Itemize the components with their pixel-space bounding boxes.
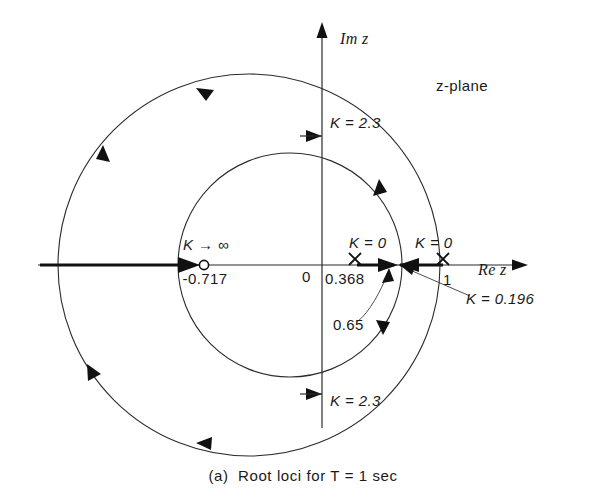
root-locus-figure: Im z Re z z-plane 0 K → ∞ -0.717 K = 0 0… xyxy=(0,0,606,499)
imaginary-axis-label: Im z xyxy=(339,30,369,47)
zero-marker-minus-0717 xyxy=(199,260,208,269)
break-in-gain-label: K = 0.196 xyxy=(466,290,534,307)
figure-background xyxy=(0,0,606,499)
crossing-gain-lower-label: K = 2.3 xyxy=(330,392,381,409)
pole-origin-value-label: 0.368 xyxy=(325,270,365,287)
figure-caption: (a) Root loci for T = 1 sec xyxy=(208,467,397,484)
root-locus-plot: Im z Re z z-plane 0 K → ∞ -0.717 K = 0 0… xyxy=(0,0,606,499)
pole-unit-value-label: 1 xyxy=(443,271,452,288)
z-plane-label: z-plane xyxy=(436,77,488,94)
breakaway-value-label: 0.65 xyxy=(333,316,364,333)
pole-origin-gain-label: K = 0 xyxy=(349,234,387,251)
zero-value-label: -0.717 xyxy=(183,270,228,287)
origin-label: 0 xyxy=(302,268,311,285)
pole-unit-gain-label: K = 0 xyxy=(415,234,453,251)
real-axis-label: Re z xyxy=(477,261,507,278)
crossing-gain-upper-label: K = 2.3 xyxy=(330,114,381,131)
k-infinity-label: K → ∞ xyxy=(183,236,229,253)
